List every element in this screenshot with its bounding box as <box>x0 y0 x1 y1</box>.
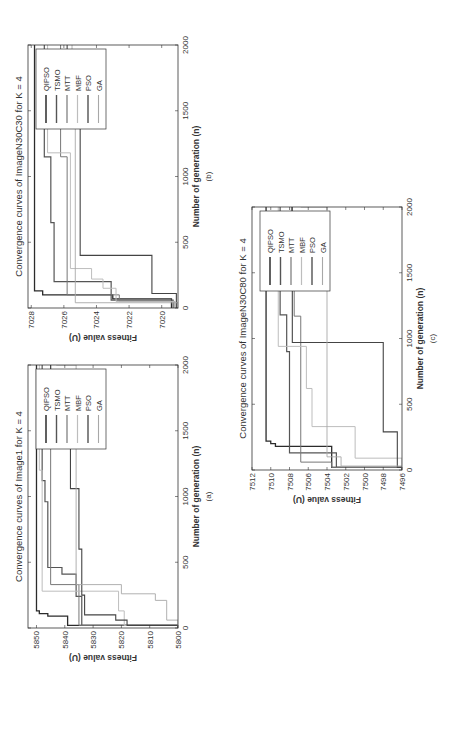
chart-panel-a: Convergence curves of Image1 for K = 405… <box>8 365 208 665</box>
y-tick-label: 5820 <box>117 630 126 648</box>
legend-label-mtt: MTT <box>287 237 296 253</box>
x-tick-label: 2000 <box>405 198 414 216</box>
chart-panel-b: Convergence curves of ImageN30C30 for K … <box>8 45 208 345</box>
x-tick-label: 2000 <box>181 36 190 54</box>
x-tick-label: 0 <box>181 305 190 310</box>
legend-label-qipso: QIPSO <box>42 67 51 91</box>
y-tick-label: 7502 <box>342 472 351 490</box>
x-tick-label: 0 <box>181 625 190 630</box>
panel-caption: (a) <box>204 491 213 501</box>
x-tick-label: 1500 <box>181 101 190 119</box>
chart-title: Convergence curves of ImageN30C80 for K … <box>237 238 248 438</box>
y-tick-label: 7506 <box>304 472 313 490</box>
chart-b: Convergence curves of ImageN30C30 for K … <box>8 45 208 345</box>
y-tick-label: 7500 <box>361 472 370 490</box>
panel-caption: (b) <box>204 171 213 181</box>
legend-label-mtt: MTT <box>63 395 72 411</box>
x-axis-label: Number of generation (n) <box>191 446 201 548</box>
legend-label-mbf: MBF <box>298 237 307 253</box>
chart-panel-c: Convergence curves of ImageN30C80 for K … <box>232 207 432 507</box>
legend-label-ga: GA <box>95 400 104 411</box>
y-tick-label: 5830 <box>89 630 98 648</box>
legend-label-tsmo: TSMO <box>53 69 62 91</box>
y-tick-label: 7022 <box>125 310 134 328</box>
y-tick-label: 5800 <box>174 630 183 648</box>
x-tick-label: 1000 <box>405 329 414 347</box>
x-tick-label: 500 <box>181 235 190 249</box>
x-axis-label: Number of generation (n) <box>191 126 201 228</box>
y-tick-label: 5840 <box>61 630 70 648</box>
x-tick-label: 1500 <box>405 263 414 281</box>
legend: QIPSOTSMOMTTMBFPSOGA <box>36 369 106 449</box>
legend-label-mtt: MTT <box>63 75 72 91</box>
legend-label-mbf: MBF <box>74 395 83 411</box>
y-axis-label: Fitness value (U) <box>69 653 137 663</box>
chart-a: Convergence curves of Image1 for K = 405… <box>8 365 208 665</box>
x-tick-label: 2000 <box>181 356 190 374</box>
y-tick-label: 7028 <box>27 310 36 328</box>
y-tick-label: 7508 <box>286 472 295 490</box>
legend-label-tsmo: TSMO <box>277 231 286 253</box>
legend-label-qipso: QIPSO <box>42 387 51 411</box>
chart-title: Convergence curves of ImageN30C30 for K … <box>13 76 24 276</box>
y-tick-label: 7496 <box>398 472 407 490</box>
legend-label-ga: GA <box>319 242 328 253</box>
y-axis-label: Fitness value (U) <box>293 495 361 505</box>
y-tick-label: 7024 <box>92 310 101 328</box>
legend-label-tsmo: TSMO <box>53 389 62 411</box>
y-tick-label: 7512 <box>248 472 257 490</box>
x-tick-label: 1000 <box>181 487 190 505</box>
y-axis-label: Fitness value (U) <box>69 333 137 343</box>
x-tick-label: 1000 <box>181 167 190 185</box>
legend-label-qipso: QIPSO <box>266 229 275 253</box>
legend-label-ga: GA <box>95 80 104 91</box>
legend-label-pso: PSO <box>84 395 93 411</box>
chart-c: Convergence curves of ImageN30C80 for K … <box>232 207 432 507</box>
y-tick-label: 5810 <box>146 630 155 648</box>
y-tick-label: 7498 <box>379 472 388 490</box>
legend-label-mbf: MBF <box>74 75 83 91</box>
legend: QIPSOTSMOMTTMBFPSOGA <box>260 211 330 291</box>
x-tick-label: 1500 <box>181 421 190 439</box>
y-tick-label: 7504 <box>323 472 332 490</box>
panel-caption: (c) <box>428 334 437 344</box>
legend-label-pso: PSO <box>308 237 317 253</box>
x-tick-label: 0 <box>405 467 414 472</box>
y-tick-label: 7510 <box>267 472 276 490</box>
y-tick-label: 7026 <box>60 310 69 328</box>
y-tick-label: 5850 <box>32 630 41 648</box>
x-tick-label: 500 <box>405 397 414 411</box>
legend: QIPSOTSMOMTTMBFPSOGA <box>36 49 106 129</box>
x-axis-label: Number of generation (n) <box>415 288 425 390</box>
chart-title: Convergence curves of Image1 for K = 4 <box>13 411 24 582</box>
legend-label-pso: PSO <box>84 75 93 91</box>
x-tick-label: 500 <box>181 555 190 569</box>
y-tick-label: 7020 <box>158 310 167 328</box>
